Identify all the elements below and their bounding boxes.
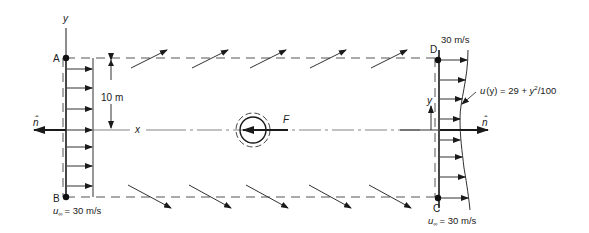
local-y-axis [400, 106, 438, 130]
label-B: B [53, 193, 60, 204]
upper-streamline-arrows [131, 50, 407, 68]
label-C: C [433, 203, 440, 214]
inlet-velocity-label: u∞= 30 m/s [53, 205, 102, 217]
local-y-label: y [426, 95, 433, 106]
label-D: D [430, 44, 437, 55]
x-axis-label: x [134, 124, 141, 135]
force-label: F [283, 114, 290, 125]
point-A-dot [63, 55, 69, 61]
outlet-top-velocity-label: 30 m/s [441, 34, 470, 45]
point-D-dot [435, 57, 441, 63]
right-normal-label: n̂ [482, 115, 488, 128]
y-axis-label: y [62, 13, 69, 24]
outlet-profile-equation: u(y) = 29 + y2/100 [480, 85, 556, 96]
inlet-velocity-profile [67, 58, 93, 197]
left-normal-label: n̂ [33, 115, 39, 128]
outlet-bottom-velocity-label: u∞= 30 m/s [428, 215, 477, 227]
point-C-dot [435, 195, 441, 201]
label-A: A [53, 53, 60, 64]
height-label: 10 m [101, 92, 123, 103]
control-volume-boundary [63, 58, 438, 197]
profile-leader-line [462, 92, 476, 104]
control-volume-diagram: A B D C y x y 10 m F n̂ n̂ u∞= 30 m/s 30… [0, 0, 589, 233]
point-B-dot [63, 194, 69, 200]
